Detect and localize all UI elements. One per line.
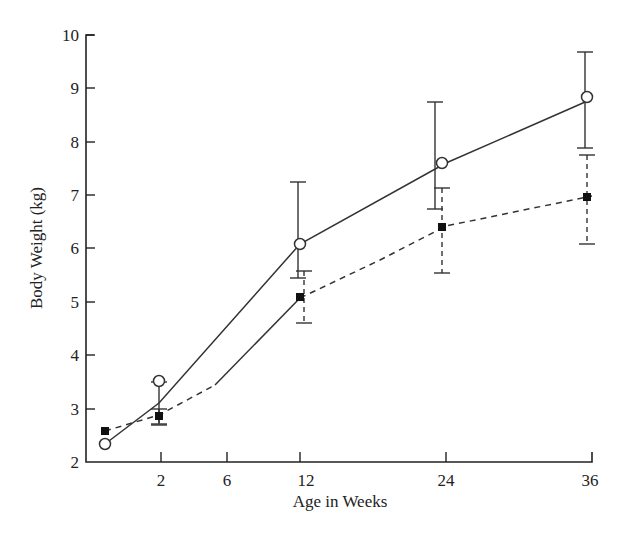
y-tick-label: 8 [71,133,80,152]
data-point [154,376,165,387]
line-chart: 10 9 8 7 6 5 4 3 2 2 6 12 24 36 Age in W… [0,0,628,541]
x-axis-title: Age in Weeks [293,492,388,511]
error-bars-open-circle [151,52,593,424]
y-tick-label: 10 [62,26,79,45]
data-point [295,239,306,250]
y-axis-title: Body Weight (kg) [27,187,46,309]
data-point [583,193,591,201]
x-tick-label: 6 [223,471,232,490]
data-point [100,439,111,450]
error-bars-filled-square [151,155,595,425]
markers-filled-square [101,193,591,435]
data-point [438,223,446,231]
x-tick-label: 12 [298,471,315,490]
data-point [155,412,163,420]
y-tick-label: 5 [71,293,80,312]
x-tick-label: 2 [157,471,166,490]
y-tick-label: 9 [71,79,80,98]
y-axis-ticks: 10 9 8 7 6 5 4 3 2 [62,26,95,472]
data-point [101,427,109,435]
x-axis-ticks: 2 6 12 24 36 [157,452,599,490]
x-tick-label: 36 [582,471,599,490]
y-tick-label: 2 [71,453,80,472]
data-point [296,293,304,301]
markers-open-circle [100,92,593,450]
y-axis [86,35,592,462]
y-tick-label: 3 [71,400,80,419]
series-open-circle-line [105,99,592,444]
data-point [437,158,448,169]
x-tick-label: 24 [438,471,456,490]
y-tick-label: 7 [71,186,80,205]
y-tick-label: 4 [71,346,80,365]
data-point [582,92,593,103]
axes [86,35,592,462]
y-tick-label: 6 [71,239,80,258]
series-filled-square-line [105,196,592,431]
